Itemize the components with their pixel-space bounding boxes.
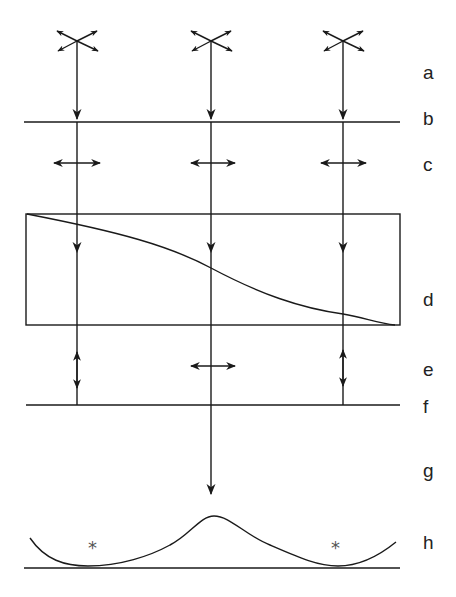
label-g: g	[423, 461, 434, 480]
extinction-marker-right: *	[331, 539, 340, 557]
label-f: f	[423, 397, 428, 416]
extinction-marker-left: *	[88, 539, 97, 557]
label-a: a	[423, 63, 434, 82]
label-e: e	[423, 360, 434, 379]
label-b: b	[423, 109, 434, 128]
label-c: c	[423, 155, 433, 174]
label-h: h	[423, 533, 434, 552]
label-d: d	[423, 290, 434, 309]
optical-diagram	[0, 0, 456, 597]
intensity-profile-curve	[30, 516, 396, 566]
